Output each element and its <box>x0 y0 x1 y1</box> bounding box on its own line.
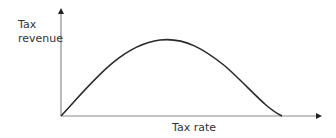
x-axis-label: Tax rate <box>172 121 216 135</box>
y-axis-label-line-2: revenue <box>18 32 63 46</box>
y-axis-label-line-1: Tax <box>18 18 63 32</box>
x-axis-arrow-icon <box>316 113 322 119</box>
tax-revenue-curve <box>61 40 282 116</box>
y-axis-label: Tax revenue <box>18 18 63 46</box>
y-axis-arrow-icon <box>58 8 64 14</box>
